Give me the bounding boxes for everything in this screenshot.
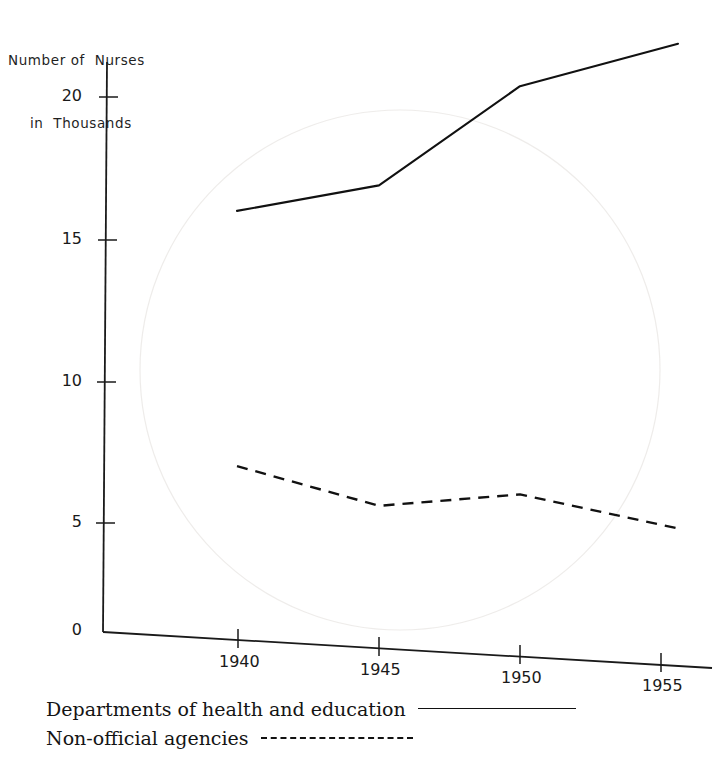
y-tick-label-5: 5 bbox=[36, 512, 82, 531]
y-axis-line bbox=[103, 62, 107, 632]
legend-entry-non-official-agencies: Non-official agencies bbox=[46, 723, 706, 752]
chart-figure: Number of Nurses in Thousands 20 bbox=[0, 0, 724, 758]
legend-entry-departments-of-health-and-education: Departments of health and education bbox=[46, 694, 706, 723]
legend-label-non-official-agencies: Non-official agencies bbox=[46, 727, 249, 749]
plot-area bbox=[0, 0, 724, 758]
chart-legend: Departments of health and education Non-… bbox=[46, 694, 706, 752]
y-tick-label-0: 0 bbox=[36, 620, 82, 639]
scan-artifact-circle bbox=[140, 110, 660, 630]
x-axis-ticks bbox=[238, 629, 661, 672]
x-tick-label-1950: 1950 bbox=[501, 668, 542, 687]
y-tick-label-20: 20 bbox=[36, 86, 82, 105]
legend-label-departments-of-health-and-education: Departments of health and education bbox=[46, 698, 406, 720]
x-tick-label-1945: 1945 bbox=[360, 660, 401, 679]
series-line-departments-of-health-and-education bbox=[237, 44, 678, 211]
x-axis-line bbox=[103, 632, 712, 668]
legend-swatch-dashed-line-icon bbox=[261, 737, 413, 739]
y-tick-label-15: 15 bbox=[36, 229, 82, 248]
legend-swatch-solid-line-icon bbox=[418, 708, 576, 709]
y-tick-label-10: 10 bbox=[36, 371, 82, 390]
series-line-non-official-agencies bbox=[237, 466, 678, 528]
x-tick-label-1940: 1940 bbox=[219, 652, 260, 671]
x-tick-label-1955: 1955 bbox=[642, 676, 683, 695]
